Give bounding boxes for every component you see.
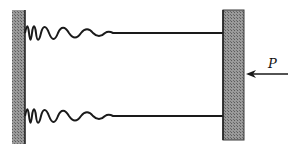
force-arrow <box>246 70 288 78</box>
top-spring <box>25 26 223 40</box>
rigid-block <box>223 10 244 140</box>
force-label: P <box>267 56 277 71</box>
left-wall <box>12 10 25 144</box>
spring-block-diagram: P <box>0 0 298 152</box>
bottom-spring <box>25 109 223 123</box>
